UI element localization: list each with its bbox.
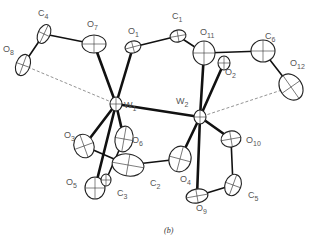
atom-element: O	[246, 135, 253, 145]
atom-label-c1: C1	[172, 11, 183, 23]
atom-label-c5: C5	[248, 190, 259, 202]
atom-label-c3: C3	[117, 188, 128, 200]
atom-c5	[222, 172, 245, 198]
figure: W1W2O1O2O3O4O5O6O7O8O9O10O11O12C1C2C3C4C…	[0, 0, 315, 240]
atom-subscript: 8	[10, 49, 14, 56]
hydrogen-bond-o12-w2	[200, 87, 291, 117]
atom-label-c2: C2	[150, 178, 161, 190]
atom-element: O	[64, 130, 71, 140]
atom-subscript: 11	[207, 32, 214, 39]
atom-c4	[34, 22, 53, 45]
atom-c3	[101, 174, 111, 186]
atom-subscript: 6	[139, 140, 143, 147]
atom-element: O	[290, 58, 297, 68]
atom-element: O	[200, 27, 207, 37]
atom-label-o5: O5	[66, 177, 77, 189]
hydrogen-bond-o8-w1	[23, 65, 116, 104]
atom-element: O	[87, 19, 94, 29]
atom-o11	[193, 41, 215, 65]
atom-subscript: 4	[187, 179, 191, 186]
bond-w1-o1	[116, 47, 133, 104]
atom-subscript: 2	[157, 183, 161, 190]
atom-o1	[124, 39, 143, 55]
atom-label-c4: C4	[38, 8, 49, 20]
atom-subscript: 1	[133, 105, 137, 112]
atom-label-w1: W1	[124, 100, 137, 112]
atom-element: O	[196, 203, 203, 213]
atom-element: O	[180, 174, 187, 184]
atom-subscript: 1	[135, 31, 139, 38]
atom-subscript: 3	[124, 193, 128, 200]
atom-c2	[110, 151, 145, 178]
atom-label-o7: O7	[87, 19, 98, 31]
atom-label-o10: O10	[246, 135, 261, 147]
bond-w2-o9	[197, 117, 200, 196]
atom-subscript: 12	[297, 63, 305, 70]
atom-subscript: 9	[203, 208, 207, 215]
atom-o4	[166, 144, 194, 175]
atom-label-o11: O11	[200, 27, 214, 39]
atom-element: O	[66, 177, 73, 187]
atom-element: O	[225, 67, 232, 77]
molecule-diagram: W1W2O1O2O3O4O5O6O7O8O9O10O11O12C1C2C3C4C…	[0, 0, 315, 240]
atom-subscript: 6	[272, 36, 276, 43]
atom-subscript: 4	[45, 13, 49, 20]
atom-o8	[13, 52, 34, 77]
atom-subscript: 3	[71, 135, 75, 142]
atom-c1	[169, 29, 187, 44]
atom-c6	[251, 40, 275, 62]
atom-label-o1: O1	[128, 26, 139, 38]
atom-subscript: 5	[73, 182, 77, 189]
atom-o12	[274, 69, 308, 105]
figure-caption: (b)	[164, 226, 174, 235]
atom-element: O	[132, 135, 139, 145]
atom-w2	[194, 110, 206, 124]
atom-subscript: 2	[185, 101, 189, 108]
atom-label-w2: W2	[176, 96, 189, 108]
atom-o7	[82, 35, 106, 53]
atom-subscript: 5	[255, 195, 259, 202]
atom-label-o6: O6	[132, 135, 143, 147]
atom-label-o8: O8	[3, 44, 14, 56]
atom-subscript: 10	[253, 140, 261, 147]
atom-w1	[110, 97, 122, 111]
atom-element: O	[3, 44, 10, 54]
atom-element: O	[128, 26, 135, 36]
atom-label-o4: O4	[180, 174, 191, 186]
atom-subscript: 2	[232, 72, 236, 79]
atom-label-o2: O2	[225, 67, 236, 79]
atom-subscript: 1	[179, 16, 183, 23]
atom-subscript: 7	[94, 24, 98, 31]
atom-label-o12: O12	[290, 58, 305, 70]
atom-label-o9: O9	[196, 203, 207, 215]
atom-label-o3: O3	[64, 130, 75, 142]
